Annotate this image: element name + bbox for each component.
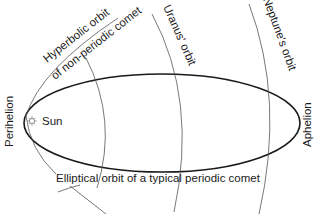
inner-planet-orbit	[86, 58, 105, 188]
elliptical-orbit-label: Elliptical orbit of a typical periodic c…	[56, 172, 261, 184]
elliptical-orbit	[24, 74, 300, 172]
neptune-orbit-label: Neptune's orbit	[261, 0, 299, 73]
hyperbola-tail	[70, 186, 106, 214]
aphelion-label: Aphelion	[301, 102, 313, 147]
uranus-orbit-label: Uranus' orbit	[161, 3, 199, 68]
diagram-canvas: Sun Perihelion Aphelion Hyperbolic orbit…	[0, 0, 316, 216]
perihelion-label: Perihelion	[3, 96, 15, 147]
sun-label: Sun	[42, 115, 62, 127]
comet-orbit-diagram: Sun Perihelion Aphelion Hyperbolic orbit…	[0, 0, 316, 216]
sun-icon	[27, 116, 36, 125]
